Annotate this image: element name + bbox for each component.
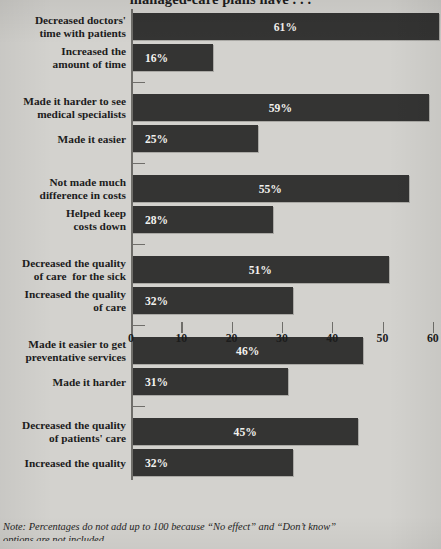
bar-row: Increased the quality of care32% <box>0 287 441 314</box>
bar-row: Made it harder31% <box>0 368 441 395</box>
bar-category-label: Decreased the quality of patients' care <box>0 419 126 444</box>
bar-category-label: Made it easier <box>0 133 126 146</box>
bar-value-label: 59% <box>132 101 429 114</box>
x-axis-tick-label: 50 <box>377 331 389 346</box>
bar-row: Increased the quality32% <box>0 449 441 476</box>
bar-row: Made it easier25% <box>0 125 441 152</box>
bar[interactable]: 61% <box>132 13 439 40</box>
bar-value-label: 31% <box>145 375 168 388</box>
bar-category-label: Made it harder to see medical specialist… <box>0 95 126 120</box>
bar[interactable]: 51% <box>132 256 389 283</box>
bar[interactable]: 32% <box>132 449 293 476</box>
x-axis: 0102030405060 <box>0 322 441 348</box>
bar-category-label: Increased the amount of time <box>0 45 126 70</box>
bar-row: Helped keep costs down28% <box>0 206 441 233</box>
group-separator-tick <box>132 244 145 246</box>
bar-value-label: 32% <box>145 456 168 469</box>
bar[interactable]: 25% <box>132 125 258 152</box>
bar-category-label: Made it harder <box>0 376 126 389</box>
bar-value-label: 32% <box>145 294 168 307</box>
group-separator-tick <box>132 163 145 165</box>
bar-row: Made it harder to see medical specialist… <box>0 94 441 121</box>
bar-value-label: 16% <box>145 51 168 64</box>
bar-row: Increased the amount of time16% <box>0 44 441 71</box>
bar-category-label: Decreased doctors' time with patients <box>0 14 126 39</box>
footnote-line-2: options are not included. <box>3 534 439 541</box>
bar-row: Decreased the quality of patients' care4… <box>0 418 441 445</box>
bar[interactable]: 55% <box>132 175 409 202</box>
bar[interactable]: 32% <box>132 287 293 314</box>
bar[interactable]: 16% <box>132 44 213 71</box>
bar-chart-figure: managed-care plans have . . . Decreased … <box>0 0 441 549</box>
bar[interactable]: 59% <box>132 94 429 121</box>
plot-area: Decreased doctors' time with patients61%… <box>0 9 441 515</box>
x-axis-tick-label: 10 <box>175 331 187 346</box>
chart-footnote: Note: Percentages do not add up to 100 b… <box>3 521 439 541</box>
bar-value-label: 25% <box>145 132 168 145</box>
bar-row: Decreased doctors' time with patients61% <box>0 13 441 40</box>
bar-value-label: 51% <box>132 263 389 276</box>
bar[interactable]: 45% <box>132 418 358 445</box>
x-axis-tick-label: 40 <box>326 331 338 346</box>
bar-category-label: Not made much difference in costs <box>0 176 126 201</box>
x-axis-tick-label: 0 <box>128 331 134 346</box>
x-axis-tick-label: 20 <box>226 331 238 346</box>
bar-row: Not made much difference in costs55% <box>0 175 441 202</box>
x-axis-tick-label: 60 <box>427 331 439 346</box>
bar-category-label: Increased the quality of care <box>0 288 126 313</box>
bar-category-label: Decreased the quality of care for the si… <box>0 257 126 282</box>
bar[interactable]: 28% <box>132 206 273 233</box>
bar-value-label: 61% <box>132 20 439 33</box>
bar-row: Decreased the quality of care for the si… <box>0 256 441 283</box>
group-separator-tick <box>132 406 145 408</box>
bar-category-label: Helped keep costs down <box>0 207 126 232</box>
bar-value-label: 55% <box>132 182 409 195</box>
bar[interactable]: 31% <box>132 368 288 395</box>
footnote-line-1: Note: Percentages do not add up to 100 b… <box>3 521 336 532</box>
bar-category-label: Increased the quality <box>0 457 126 470</box>
bar-value-label: 28% <box>145 213 168 226</box>
chart-title: managed-care plans have . . . <box>0 0 441 8</box>
bar-value-label: 45% <box>132 425 358 438</box>
group-separator-tick <box>132 82 145 84</box>
x-axis-tick-label: 30 <box>276 331 288 346</box>
